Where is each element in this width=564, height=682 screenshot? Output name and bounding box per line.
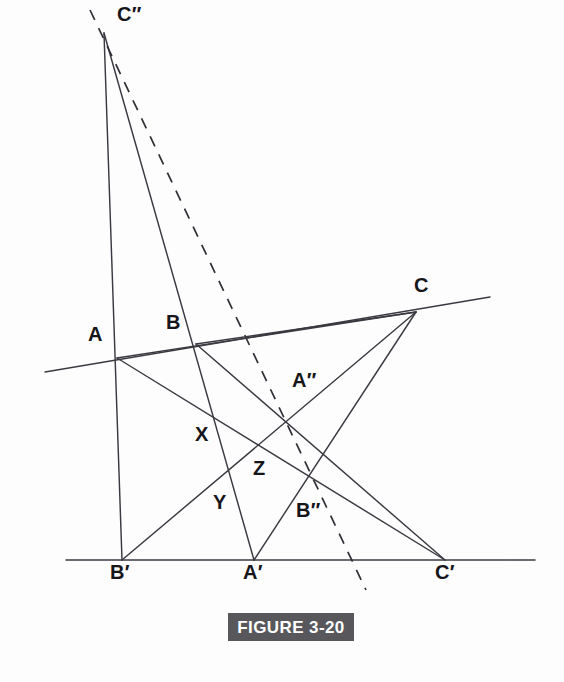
vertex-label-A1: A′	[243, 562, 263, 582]
segment-Cpp-to-Ap	[104, 33, 254, 560]
figure-caption-text: FIGURE 3-20	[237, 619, 344, 636]
segment-C-to-Bp	[122, 312, 416, 560]
vertex-label-C2: C″	[117, 4, 141, 24]
vertex-label-B1: B′	[110, 562, 130, 582]
vertex-label-X: X	[195, 424, 209, 444]
line-segments-group	[45, 10, 535, 590]
vertex-label-C: C	[414, 275, 429, 295]
geometry-drawing	[0, 0, 564, 682]
segment-C-to-Ap	[254, 312, 416, 560]
vertex-label-A: A	[88, 324, 103, 344]
segment-B-to-Cp	[196, 344, 445, 560]
segment-A-to-Cp	[117, 358, 445, 560]
dashed-axis-line	[90, 10, 366, 590]
segment-Cpp-to-Bp	[104, 33, 122, 560]
segment-C-to-A	[117, 312, 416, 358]
figure-canvas: C″ABCA″XZYB″B′A′C′ FIGURE 3-20	[0, 0, 564, 682]
vertex-label-A2: A″	[292, 370, 316, 390]
vertex-label-C1: C′	[435, 562, 455, 582]
vertex-label-B: B	[166, 312, 181, 332]
vertex-label-Z: Z	[253, 458, 265, 478]
vertex-label-B2: B″	[296, 500, 320, 520]
vertex-label-Y: Y	[213, 492, 227, 512]
figure-caption-bar: FIGURE 3-20	[228, 613, 354, 641]
